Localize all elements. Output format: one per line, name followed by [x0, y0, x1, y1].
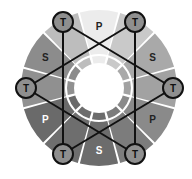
segment-label-p: P	[149, 114, 156, 125]
node-label: T	[23, 83, 29, 94]
segment-label-s: S	[96, 145, 103, 156]
color-wheel-diagram: PSPSPS TTTTTT	[0, 0, 192, 179]
segment-label-s: S	[42, 52, 49, 63]
node-label: T	[170, 83, 176, 94]
node-t-top-left: T	[53, 12, 73, 32]
node-t-bottom-right: T	[125, 144, 145, 164]
segment-label-s: S	[149, 52, 156, 63]
segment-label-p: P	[42, 114, 49, 125]
node-label: T	[132, 17, 138, 28]
node-label: T	[132, 149, 138, 160]
node-label: T	[60, 149, 66, 160]
node-t-top-right: T	[125, 12, 145, 32]
node-t-bottom-left: T	[53, 144, 73, 164]
segment-label-p: P	[96, 21, 103, 32]
node-t-right: T	[163, 78, 183, 98]
node-t-left: T	[16, 78, 36, 98]
center-hole	[74, 63, 124, 113]
node-label: T	[60, 17, 66, 28]
